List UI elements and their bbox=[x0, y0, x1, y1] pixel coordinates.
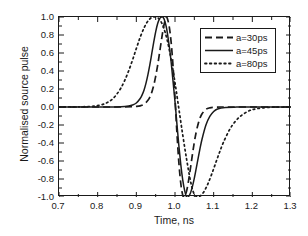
x-tick-label: 0.9 bbox=[115, 200, 155, 211]
legend-label: a=80ps bbox=[236, 58, 267, 69]
x-tick-label: 0.8 bbox=[77, 200, 117, 211]
y-tick-label: 0.4 bbox=[18, 65, 54, 76]
y-tick-label: -0.2 bbox=[18, 119, 54, 130]
x-tick-label: 1.3 bbox=[270, 200, 308, 211]
x-tick-label: 1.1 bbox=[193, 200, 233, 211]
x-axis-title: Time, ns bbox=[58, 214, 290, 226]
legend-item: a=45ps bbox=[204, 44, 272, 57]
y-tick-label: 0.8 bbox=[18, 29, 54, 40]
legend-label: a=45ps bbox=[236, 45, 267, 56]
y-tick-label: 0.2 bbox=[18, 83, 54, 94]
legend-item: a=80ps bbox=[204, 57, 272, 70]
legend-label: a=30ps bbox=[236, 32, 267, 43]
legend-line-sample bbox=[204, 45, 234, 56]
y-tick-label: 0.0 bbox=[18, 101, 54, 112]
y-tick-label: -0.6 bbox=[18, 155, 54, 166]
chart-figure: Normalised source pulse Time, ns a=30psa… bbox=[0, 0, 308, 236]
y-tick-label: -0.8 bbox=[18, 173, 54, 184]
x-tick-label: 0.7 bbox=[38, 200, 78, 211]
y-tick-label: -0.4 bbox=[18, 137, 54, 148]
chart-legend: a=30psa=45psa=80ps bbox=[200, 28, 276, 73]
x-tick-label: 1.2 bbox=[231, 200, 271, 211]
y-tick-label: 1.0 bbox=[18, 11, 54, 22]
legend-item: a=30ps bbox=[204, 31, 272, 44]
x-tick-label: 1.0 bbox=[154, 200, 194, 211]
legend-line-sample bbox=[204, 32, 234, 43]
legend-line-sample bbox=[204, 58, 234, 69]
y-tick-label: 0.6 bbox=[18, 47, 54, 58]
